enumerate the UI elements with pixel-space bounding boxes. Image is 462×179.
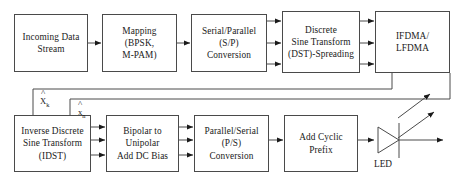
block-line: Add Cyclic xyxy=(297,131,345,143)
block-line: M-PAM) xyxy=(120,49,158,61)
block-line: Sine Transform xyxy=(286,36,356,48)
block-line: Parallel/Serial xyxy=(202,125,260,137)
block-line: Sine Transform xyxy=(19,137,85,149)
block-line: Serial/Parallel xyxy=(200,25,258,37)
block-line: (S/P) xyxy=(200,37,258,49)
block-line: Add DC Bias xyxy=(115,150,170,162)
block-line: LFDMA xyxy=(394,42,431,54)
signal-subscript: n xyxy=(82,112,85,119)
led-triangle-icon xyxy=(378,127,399,153)
signal-label-x-hat-k: Xk xyxy=(40,96,49,108)
led-emission-arrow-1 xyxy=(398,94,430,118)
block-line: Bipolar to xyxy=(115,125,170,137)
block-discrete-sine-transform[interactable]: DiscreteSine Transform(DST)-Spreading xyxy=(282,11,360,73)
block-parallel-serial-conversion[interactable]: Parallel/Serial(P/S)Conversion xyxy=(194,115,269,172)
block-line: (P/S) xyxy=(202,137,260,149)
block-line: Conversion xyxy=(200,49,258,61)
block-line: Incoming Data xyxy=(21,31,82,43)
block-line: (IDST) xyxy=(19,150,85,162)
led-label: LED xyxy=(374,159,392,169)
block-line: Conversion xyxy=(202,150,260,162)
signal-base-symbol: x xyxy=(78,107,82,117)
block-line: (DST)-Spreading xyxy=(286,48,356,60)
block-line: (BPSK, xyxy=(120,37,158,49)
signal-label-x-hat-n: xn xyxy=(78,107,86,119)
block-mapping[interactable]: Mapping(BPSK,M-PAM) xyxy=(102,14,177,72)
signal-base-symbol: X xyxy=(40,96,46,106)
signal-subscript: k xyxy=(46,101,49,108)
block-diagram-canvas: Incoming DataStream Mapping(BPSK,M-PAM) … xyxy=(0,0,462,179)
block-line: Stream xyxy=(21,43,82,55)
block-line: Mapping xyxy=(120,25,158,37)
block-serial-parallel-conversion[interactable]: Serial/Parallel(S/P)Conversion xyxy=(191,14,267,72)
block-line: Discrete xyxy=(286,24,356,36)
block-line: Unipolar xyxy=(115,137,170,149)
block-line: Prefix xyxy=(297,144,345,156)
block-ifdma-lfdma[interactable]: IFDMA/LFDMA xyxy=(375,11,450,73)
led-emission-arrow-2 xyxy=(398,112,434,138)
block-inverse-discrete-sine-transform[interactable]: Inverse DiscreteSine Transform(IDST) xyxy=(14,115,91,172)
block-line: IFDMA/ xyxy=(394,30,431,42)
block-line: Inverse Discrete xyxy=(19,125,85,137)
block-incoming-data-stream[interactable]: Incoming DataStream xyxy=(14,14,88,72)
block-bipolar-to-unipolar[interactable]: Bipolar toUnipolarAdd DC Bias xyxy=(106,115,179,172)
block-add-cyclic-prefix[interactable]: Add CyclicPrefix xyxy=(284,115,358,172)
